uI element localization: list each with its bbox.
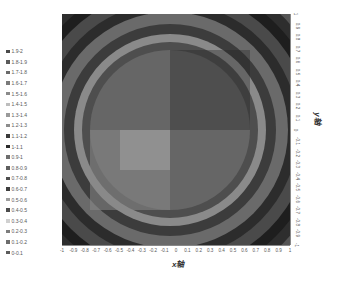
legend-label: 0.1-0.2 bbox=[12, 239, 28, 245]
y-tick-label: 0.7 bbox=[295, 45, 300, 51]
x-tick-label: 0.6 bbox=[241, 248, 247, 253]
legend-item: 1.6-1.7 bbox=[6, 78, 56, 89]
legend-item: 1.4-1.5 bbox=[6, 99, 56, 110]
x-tick-label: 0 bbox=[175, 248, 178, 253]
legend-item: 1.3-1.4 bbox=[6, 110, 56, 121]
legend-swatch bbox=[6, 71, 10, 75]
y-tick-label: -0.7 bbox=[295, 206, 300, 214]
legend-swatch bbox=[6, 92, 10, 96]
legend-swatch bbox=[6, 187, 10, 191]
legend-label: 1.4-1.5 bbox=[12, 101, 28, 107]
legend-item: 0-0.1 bbox=[6, 247, 56, 258]
x-tick-label: -1 bbox=[60, 248, 64, 253]
x-tick-label: 0.7 bbox=[253, 248, 259, 253]
legend-label: 1.2-1.3 bbox=[12, 122, 28, 128]
legend-item: 1.8-1.9 bbox=[6, 57, 56, 68]
x-tick-label: 0.2 bbox=[196, 248, 202, 253]
y-tick-label: -0.2 bbox=[295, 149, 300, 157]
x-tick-label: 1 bbox=[289, 248, 292, 253]
x-tick-label: 0.3 bbox=[207, 248, 213, 253]
legend-swatch bbox=[6, 81, 10, 85]
contour-rings bbox=[62, 14, 290, 245]
x-tick-label: -0.8 bbox=[81, 248, 89, 253]
y-tick-label: 0.2 bbox=[295, 103, 300, 109]
x-tick-label: -0.9 bbox=[69, 248, 77, 253]
y-tick-label: 0.5 bbox=[295, 69, 300, 75]
x-tick-label: 0.4 bbox=[218, 248, 224, 253]
legend-label: 1-1.1 bbox=[12, 144, 23, 150]
legend-label: 0.4-0.5 bbox=[12, 207, 28, 213]
legend-label: 0.7-0.8 bbox=[12, 175, 28, 181]
y-tick-label: -0.9 bbox=[295, 229, 300, 237]
legend-swatch bbox=[6, 124, 10, 128]
legend-label: 1.3-1.4 bbox=[12, 112, 28, 118]
plot-area bbox=[62, 14, 290, 245]
y-tick-label: 0.6 bbox=[295, 57, 300, 63]
legend-item: 0.1-0.2 bbox=[6, 237, 56, 248]
legend-label: 1.5-1.6 bbox=[12, 91, 28, 97]
y-tick-label: 0.3 bbox=[295, 92, 300, 98]
legend-item: 0.9-1 bbox=[6, 152, 56, 163]
legend-swatch bbox=[6, 251, 10, 255]
y-axis-label: y轴 bbox=[313, 112, 324, 124]
legend-label: 0.8-0.9 bbox=[12, 165, 28, 171]
x-tick-label: 0.9 bbox=[275, 248, 281, 253]
legend-item: 0.2-0.3 bbox=[6, 226, 56, 237]
legend-swatch bbox=[6, 103, 10, 107]
x-tick-label: -0.3 bbox=[138, 248, 146, 253]
x-tick-label: -0.4 bbox=[126, 248, 134, 253]
y-tick-label: 0 bbox=[293, 128, 298, 131]
legend-swatch bbox=[6, 240, 10, 244]
y-tick-label: -0.4 bbox=[295, 172, 300, 180]
legend-swatch bbox=[6, 198, 10, 202]
legend-swatch bbox=[6, 177, 10, 181]
y-tick-label: 0.8 bbox=[295, 34, 300, 40]
x-tick-label: 0.1 bbox=[184, 248, 190, 253]
y-tick-label: 0.9 bbox=[295, 22, 300, 28]
y-tick-label: 1 bbox=[293, 13, 298, 16]
legend-swatch bbox=[6, 113, 10, 117]
x-tick-label: 0.5 bbox=[230, 248, 236, 253]
x-tick-label: -0.1 bbox=[161, 248, 169, 253]
legend-swatch bbox=[6, 145, 10, 149]
legend-item: 1.2-1.3 bbox=[6, 120, 56, 131]
legend-item: 1.5-1.6 bbox=[6, 88, 56, 99]
legend-item: 0.7-0.8 bbox=[6, 173, 56, 184]
legend-label: 0.9-1 bbox=[12, 154, 23, 160]
legend-item: 0.3-0.4 bbox=[6, 216, 56, 227]
legend-label: 0.3-0.4 bbox=[12, 218, 28, 224]
legend-swatch bbox=[6, 60, 10, 64]
x-tick-label: -0.2 bbox=[149, 248, 157, 253]
y-tick-label: 0.4 bbox=[295, 80, 300, 86]
legend-swatch bbox=[6, 219, 10, 223]
legend-label: 1.1-1.2 bbox=[12, 133, 28, 139]
x-tick-label: -0.6 bbox=[104, 248, 112, 253]
chart-legend: 1.9-21.8-1.91.7-1.81.6-1.71.5-1.61.4-1.5… bbox=[6, 46, 56, 258]
legend-item: 0.5-0.6 bbox=[6, 194, 56, 205]
x-tick-label: -0.7 bbox=[92, 248, 100, 253]
legend-swatch bbox=[6, 134, 10, 138]
y-tick-label: -0.1 bbox=[295, 137, 300, 145]
legend-swatch bbox=[6, 50, 10, 54]
legend-label: 0.6-0.7 bbox=[12, 186, 28, 192]
x-axis-label: x轴 bbox=[172, 258, 184, 269]
x-tick-label: 0.8 bbox=[264, 248, 270, 253]
legend-label: 1.9-2 bbox=[12, 48, 23, 54]
x-tick-label: -0.5 bbox=[115, 248, 123, 253]
legend-item: 1.9-2 bbox=[6, 46, 56, 57]
legend-item: 0.8-0.9 bbox=[6, 163, 56, 174]
legend-item: 1-1.1 bbox=[6, 141, 56, 152]
y-tick-label: -0.6 bbox=[295, 195, 300, 203]
legend-label: 1.7-1.8 bbox=[12, 69, 28, 75]
y-tick-label: -0.5 bbox=[295, 183, 300, 191]
legend-swatch bbox=[6, 230, 10, 234]
legend-label: 0-0.1 bbox=[12, 250, 23, 256]
legend-item: 0.4-0.5 bbox=[6, 205, 56, 216]
legend-label: 1.8-1.9 bbox=[12, 59, 28, 65]
legend-item: 0.6-0.7 bbox=[6, 184, 56, 195]
legend-label: 0.5-0.6 bbox=[12, 197, 28, 203]
legend-swatch bbox=[6, 155, 10, 159]
legend-label: 0.2-0.3 bbox=[12, 228, 28, 234]
y-tick-label: -1 bbox=[294, 243, 299, 247]
y-tick-label: 0.1 bbox=[295, 115, 300, 121]
